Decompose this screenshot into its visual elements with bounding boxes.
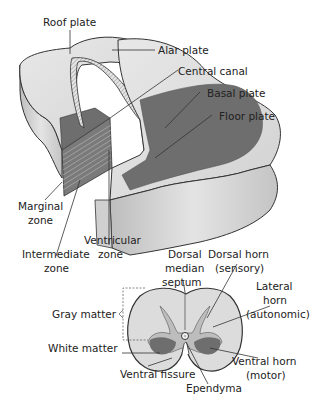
spinal-cord-cross-section xyxy=(128,288,243,371)
label-ependyma: Ependyma xyxy=(186,382,242,394)
label-dorsal-median-septum-3: septum xyxy=(162,276,202,288)
label-intermediate-zone-2: zone xyxy=(44,262,69,274)
label-ventral-horn-2: (motor) xyxy=(246,369,286,381)
label-dorsal-horn-2: (sensory) xyxy=(215,262,264,274)
label-dorsal-horn-1: Dorsal horn xyxy=(208,248,269,260)
label-lateral-horn-1: Lateral xyxy=(256,280,293,292)
spinal-cord-diagram: Roof plate Alar plate Central canal Basa… xyxy=(0,0,320,408)
label-ventral-fissure: Ventral fissure xyxy=(120,368,195,380)
label-basal-plate: Basal plate xyxy=(207,87,265,99)
label-dorsal-median-septum-1: Dorsal xyxy=(168,248,202,260)
label-intermediate-zone-1: Intermediate xyxy=(22,248,90,260)
label-ventricular-zone-2: zone xyxy=(98,248,123,260)
label-white-matter: White matter xyxy=(48,342,118,354)
label-ventral-horn-1: Ventral horn xyxy=(232,355,296,367)
label-dorsal-median-septum-2: median xyxy=(165,262,204,274)
label-ventricular-zone-1: Ventricular xyxy=(84,234,142,246)
label-central-canal: Central canal xyxy=(178,65,248,77)
label-lateral-horn-3: (autonomic) xyxy=(246,308,310,320)
label-lateral-horn-2: horn xyxy=(263,294,287,306)
label-roof-plate: Roof plate xyxy=(43,16,96,28)
label-gray-matter: Gray matter xyxy=(52,308,117,320)
central-canal-core xyxy=(184,335,187,338)
label-alar-plate: Alar plate xyxy=(158,44,209,56)
label-marginal-zone-1: Marginal xyxy=(18,200,63,212)
label-marginal-zone-2: zone xyxy=(28,214,53,226)
label-floor-plate: Floor plate xyxy=(219,110,275,122)
